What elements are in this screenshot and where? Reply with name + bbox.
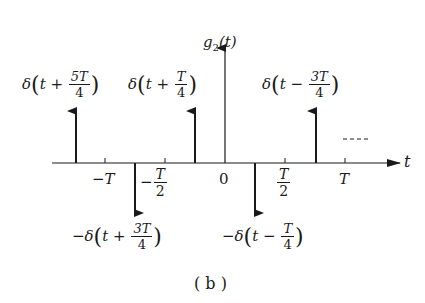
label-op: +: [156, 75, 169, 93]
frac-den: 4: [138, 237, 146, 251]
label-prefix: δ: [22, 75, 31, 93]
label-op: +: [50, 75, 63, 93]
tick-label-zero: 0: [219, 172, 229, 187]
label-var: t: [252, 227, 258, 245]
label-op: −: [263, 227, 276, 245]
tick-label-neg-T2: −T2: [140, 167, 168, 198]
frac-den: 4: [284, 237, 292, 251]
frac-den: 4: [315, 85, 323, 99]
label-var: t: [280, 75, 286, 93]
y-label-arg: (t): [219, 33, 237, 51]
frac-num: T: [175, 70, 188, 85]
frac-num: T: [277, 167, 290, 183]
y-label-g: g: [203, 33, 213, 51]
frac-den: 4: [75, 85, 83, 99]
label-var: t: [40, 75, 46, 93]
frac-num: 5T: [69, 70, 90, 85]
frac-num: 3T: [131, 222, 152, 237]
tick-label-neg-T: −T: [92, 172, 115, 187]
figure-caption: ( b ): [194, 274, 227, 293]
label-op: −: [290, 75, 303, 93]
impulse-label-neg-T4: δ(t + T4): [128, 70, 197, 99]
tick-label-T: T: [339, 172, 349, 187]
frac-num: T: [281, 222, 294, 237]
impulse-label-T4: −δ(t − T4): [222, 222, 304, 251]
frac-den: 2: [279, 183, 288, 198]
tick-sign: −: [140, 173, 153, 191]
label-prefix: δ: [262, 75, 271, 93]
impulse-label-neg-5T4: δ(t + 5T4): [22, 70, 99, 99]
impulse-label-3T4: δ(t − 3T4): [262, 70, 339, 99]
frac-num: 3T: [309, 70, 330, 85]
frac-den: 2: [156, 183, 165, 198]
impulse-label-neg-3T4: −δ(t + 3T4): [72, 222, 162, 251]
label-var: t: [102, 227, 108, 245]
label-prefix: δ: [128, 75, 137, 93]
frac-num: T: [154, 167, 167, 183]
label-var: t: [146, 75, 152, 93]
label-prefix: −δ: [72, 227, 94, 245]
x-axis-label: t: [404, 154, 410, 170]
label-op: +: [113, 227, 126, 245]
tick-label-T2: T2: [276, 167, 291, 198]
label-prefix: −δ: [222, 227, 244, 245]
frac-den: 4: [177, 85, 185, 99]
y-axis-label: g2(t): [203, 35, 237, 53]
